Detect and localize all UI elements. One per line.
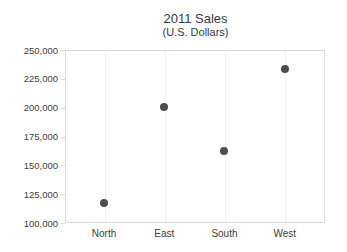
gridline-east [165, 51, 166, 222]
y-tick-label: 225,000 [8, 73, 58, 84]
chart-subtitle: (U.S. Dollars) [65, 26, 326, 38]
y-tick-label: 250,000 [8, 45, 58, 56]
x-category-label-north: North [74, 228, 134, 240]
gridline-north [105, 51, 106, 222]
y-tick-label: 200,000 [8, 102, 58, 113]
plot-area [65, 50, 325, 223]
y-tick-mark [61, 165, 65, 166]
x-category-label-south: South [194, 228, 254, 240]
y-tick-label: 100,000 [8, 218, 58, 229]
x-category-label-east: East [134, 228, 194, 240]
y-tick-mark [61, 79, 65, 80]
y-tick-label: 175,000 [8, 131, 58, 142]
y-tick-label: 125,000 [8, 189, 58, 200]
data-point-west [281, 65, 289, 73]
chart-title: 2011 Sales [65, 12, 326, 26]
chart-window: 2011 Sales (U.S. Dollars) 100,000125,000… [0, 0, 347, 252]
y-tick-mark [61, 50, 65, 51]
y-tick-mark [61, 137, 65, 138]
y-tick-mark [61, 194, 65, 195]
gridline-south [225, 51, 226, 222]
y-tick-mark [61, 223, 65, 224]
y-tick-mark [61, 108, 65, 109]
y-tick-label: 150,000 [8, 160, 58, 171]
x-category-label-west: West [255, 228, 315, 240]
data-point-east [160, 103, 168, 111]
gridline-west [285, 51, 286, 222]
